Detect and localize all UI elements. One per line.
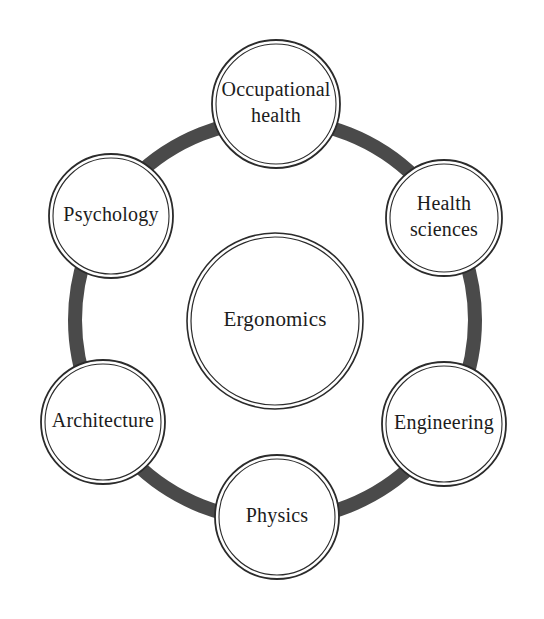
diagram-canvas: Ergonomics OccupationalhealthHealthscien… (0, 0, 544, 619)
center-node-ergonomics[interactable]: Ergonomics (187, 233, 363, 409)
node-psychology[interactable]: Psychology (49, 154, 173, 278)
node-health-sciences[interactable]: Healthsciences (386, 160, 502, 276)
node-occupational-health[interactable]: Occupationalhealth (212, 40, 340, 168)
node-architecture[interactable]: Architecture (41, 360, 165, 484)
node-physics[interactable]: Physics (215, 455, 339, 579)
node-label: Psychology (63, 203, 158, 226)
node-label: Architecture (52, 409, 154, 431)
ergonomics-ring-diagram: Ergonomics OccupationalhealthHealthscien… (0, 0, 544, 619)
node-label-line2: sciences (410, 218, 478, 240)
node-label: Engineering (394, 411, 494, 434)
node-label-line2: health (251, 104, 301, 126)
node-label: Physics (246, 504, 309, 527)
node-label-line1: Health (417, 192, 472, 214)
center-node-label: Ergonomics (223, 307, 326, 331)
node-label-line1: Occupational (221, 78, 330, 101)
node-engineering[interactable]: Engineering (382, 362, 506, 486)
